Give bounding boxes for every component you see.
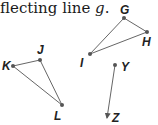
label-h: H <box>142 35 151 49</box>
label-j: J <box>37 43 44 57</box>
label-z: Z <box>111 111 120 125</box>
point-l <box>60 103 64 107</box>
label-l: L <box>54 109 61 123</box>
label-g: G <box>120 3 129 17</box>
point-k <box>11 64 15 68</box>
label-k: K <box>2 59 12 73</box>
point-j <box>38 58 42 62</box>
point-i <box>88 52 92 56</box>
point-h <box>145 30 149 34</box>
segment-yz: Y Z <box>107 60 130 125</box>
geometry-diagram: G H I J K L Y Z <box>0 0 158 125</box>
triangle-jkl: J K L <box>2 43 64 123</box>
point-y <box>113 63 117 67</box>
label-y: Y <box>121 60 130 74</box>
label-i: I <box>80 56 84 70</box>
triangle-ghi: G H I <box>80 3 151 70</box>
